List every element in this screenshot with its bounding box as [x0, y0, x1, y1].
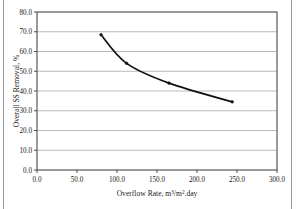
y-axis-tick-labels: 0.010.020.030.040.050.060.070.080.0	[19, 9, 32, 175]
x-tick-label: 300.0	[269, 176, 286, 184]
y-tick-label: 20.0	[19, 127, 32, 135]
data-point-marker	[231, 101, 234, 104]
y-tick-label: 50.0	[19, 68, 32, 76]
data-point-marker	[168, 82, 171, 85]
y-tick-label: 80.0	[19, 9, 32, 17]
y-tick-label: 60.0	[19, 48, 32, 56]
x-tick-label: 50.0	[71, 176, 84, 184]
x-tick-label: 200.0	[189, 176, 206, 184]
x-axis-title: Overflow Rate, m3/m2.day	[117, 189, 198, 198]
y-axis-title: Overall SS Removal, %	[12, 54, 21, 127]
y-tick-label: 10.0	[19, 147, 32, 155]
y-tick-label: 30.0	[19, 107, 32, 115]
data-point-markers-group	[100, 33, 234, 103]
y-tick-label: 0.0	[23, 167, 32, 175]
y-tick-label: 70.0	[19, 28, 32, 36]
line-chart: 0.010.020.030.040.050.060.070.080.0 0.05…	[0, 0, 299, 209]
x-tick-label: 100.0	[109, 176, 126, 184]
data-point-marker	[125, 62, 128, 65]
x-tick-label: 150.0	[149, 176, 166, 184]
data-point-marker	[100, 33, 103, 36]
gridlines-group	[37, 32, 277, 151]
x-axis-tick-labels: 0.050.0100.0150.0200.0250.0300.0	[33, 176, 286, 184]
figure-container: 0.010.020.030.040.050.060.070.080.0 0.05…	[0, 0, 299, 209]
y-tick-label: 40.0	[19, 88, 32, 96]
x-tick-label: 0.0	[33, 176, 42, 184]
x-tick-label: 250.0	[229, 176, 246, 184]
data-series-line	[101, 35, 232, 102]
